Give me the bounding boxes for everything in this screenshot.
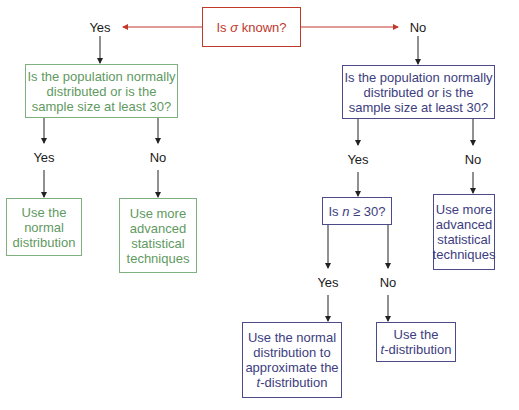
label-no-blue: No (465, 152, 482, 167)
label-yes-n: Yes (317, 275, 338, 290)
use-normal-approx-t-box: Use the normal distribution to approxima… (242, 322, 342, 398)
label-yes-blue: Yes (347, 152, 368, 167)
line: Use the normal (245, 330, 338, 345)
root-post: known? (238, 20, 286, 35)
line: advanced (433, 217, 496, 232)
sigma-symbol: σ (230, 20, 238, 35)
line: sample size at least 30? (27, 99, 175, 114)
line: Use more (433, 202, 496, 217)
line: distributed or is the (344, 85, 492, 100)
line: techniques (127, 251, 190, 266)
label-no-n: No (380, 275, 397, 290)
line: Is the population normally (27, 69, 175, 84)
root-pre: Is (217, 20, 231, 35)
use-advanced-techniques-box-blue: Use more advanced statistical techniques (433, 194, 495, 270)
no-branch-question-box: Is the population normally distributed o… (342, 65, 495, 119)
line: advanced (127, 221, 190, 236)
line: statistical (127, 236, 190, 251)
line: Use the (13, 205, 76, 220)
line-rest: -distribution (384, 342, 451, 357)
use-advanced-techniques-box-green: Use more advanced statistical techniques (119, 198, 197, 273)
use-normal-distribution-box: Use the normal distribution (6, 198, 82, 256)
root-question-text: Is σ known? (217, 20, 287, 35)
line: Use more (127, 206, 190, 221)
n-check-pre: Is (328, 204, 342, 219)
yes-branch-question-box: Is the population normally distributed o… (25, 64, 178, 118)
line: statistical (433, 232, 496, 247)
n-check-box: Is n ≥ 30? (322, 197, 392, 225)
line: approximate the (245, 360, 338, 375)
root-question-box: Is σ known? (202, 7, 301, 47)
label-no-top: No (410, 20, 427, 35)
line: distribution (13, 235, 76, 250)
line: distribution to (245, 345, 338, 360)
line: t-distribution (245, 375, 338, 390)
line: sample size at least 30? (344, 100, 492, 115)
label-yes-green: Yes (33, 150, 54, 165)
line: normal (13, 220, 76, 235)
label-no-green: No (150, 150, 167, 165)
line: t-distribution (381, 342, 452, 357)
line: Use the (381, 327, 452, 342)
line-rest: -distribution (260, 375, 327, 390)
line: techniques (433, 247, 496, 262)
use-t-distribution-box: Use the t-distribution (376, 322, 456, 362)
n-check-post: ≥ 30? (349, 204, 385, 219)
label-yes-top: Yes (89, 20, 110, 35)
line: Is the population normally (344, 70, 492, 85)
line: distributed or is the (27, 84, 175, 99)
